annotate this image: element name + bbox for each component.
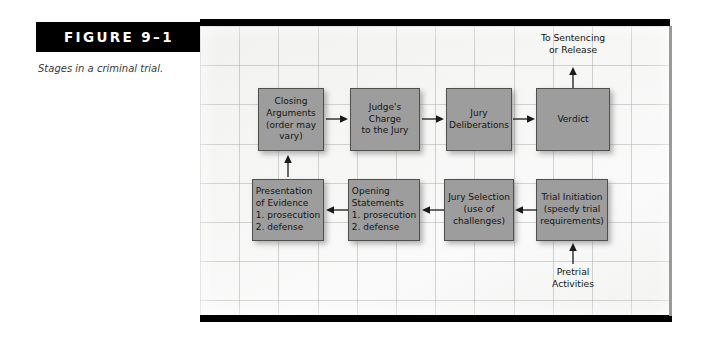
- arrow-judges-charge-to-jury-deliberations: [422, 114, 445, 124]
- arrow-jury-deliberations-to-verdict: [513, 114, 536, 124]
- figure-label-text: FIGURE 9–1: [64, 29, 174, 45]
- flow-box-jury-deliberations: Jury Deliberations: [446, 88, 512, 151]
- flow-box-closing-arguments: Closing Arguments (order may vary): [258, 88, 324, 151]
- arrow-opening-statements-to-presentation: [325, 205, 348, 215]
- arrow-closing-arguments-to-judges-charge: [326, 114, 349, 124]
- panel-right-edge: [669, 26, 672, 316]
- diagram-panel: Closing Arguments (order may vary) Judge…: [200, 26, 670, 315]
- flow-box-presentation-of-evidence: Presentation of Evidence 1. prosecution …: [252, 179, 324, 241]
- note-pretrial-activities: Pretrial Activities: [530, 266, 616, 291]
- arrow-pretrial-to-trial-initiation: [568, 242, 578, 265]
- flow-box-label: Judge's Charge to the Jury: [351, 102, 419, 138]
- figure-caption: Stages in a criminal trial.: [38, 62, 188, 76]
- arrow-trial-initiation-to-jury-selection: [514, 205, 537, 215]
- flow-box-trial-initiation: Trial Initiation (speedy trial requireme…: [536, 179, 608, 241]
- flow-box-label: Jury Selection (use of challenges): [446, 192, 512, 228]
- arrow-jury-selection-to-opening-statements: [421, 205, 444, 215]
- flow-box-jury-selection: Jury Selection (use of challenges): [444, 179, 514, 241]
- flow-box-verdict: Verdict: [536, 88, 610, 151]
- panel-bottom-rule: [200, 315, 672, 322]
- flow-box-label: Verdict: [555, 114, 590, 126]
- note-to-sentencing-or-release: To Sentencing or Release: [520, 32, 626, 57]
- arrow-presentation-to-closing-arguments: [283, 154, 293, 178]
- flow-box-label: Jury Deliberations: [447, 108, 511, 132]
- flow-box-label: Trial Initiation (speedy trial requireme…: [538, 192, 606, 228]
- arrow-verdict-to-sentencing: [568, 66, 578, 89]
- flow-box-opening-statements: Opening Statements 1. prosecution 2. def…: [348, 179, 420, 241]
- flow-box-label: Presentation of Evidence 1. prosecution …: [254, 186, 322, 234]
- flow-box-label: Closing Arguments (order may vary): [264, 96, 318, 144]
- flow-box-label: Opening Statements 1. prosecution 2. def…: [350, 186, 418, 234]
- panel-top-rule: [200, 19, 670, 26]
- flow-box-judges-charge: Judge's Charge to the Jury: [350, 88, 420, 151]
- figure-label-bar: FIGURE 9–1: [36, 22, 202, 52]
